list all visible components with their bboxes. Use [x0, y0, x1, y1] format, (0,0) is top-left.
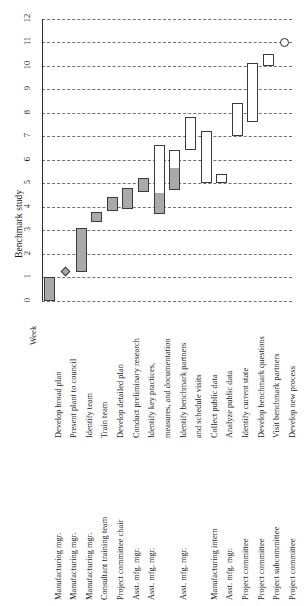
- task-label: Present plant to council: [70, 359, 78, 438]
- gantt-bar: [185, 117, 196, 150]
- resource-label: Asst. mfg. mgr.: [148, 548, 156, 600]
- resource-label: Manufacturing intern: [211, 528, 219, 600]
- week-tick-8: 8: [22, 105, 32, 119]
- week-tick-0: 0: [22, 293, 32, 307]
- resource-label: Project committee: [258, 539, 266, 600]
- resource-label: Asst. mfg. mgr.: [180, 548, 188, 600]
- gantt-bar: [138, 178, 149, 192]
- gantt-chart: Benchmark study Week 0123456789101112 De…: [0, 0, 304, 606]
- gantt-bar: [247, 63, 258, 122]
- week-axis-label: Week: [28, 326, 38, 345]
- task-label: Conduct preliminary research: [133, 338, 141, 438]
- milestone-diamond: [60, 266, 70, 276]
- task-label: and schedule visits: [195, 374, 203, 438]
- task-label: Train team: [101, 402, 109, 438]
- task-label: Develop detailed plan: [117, 364, 125, 438]
- week-tick-12: 12: [22, 11, 32, 25]
- resource-label: Project committee chair: [117, 520, 125, 600]
- resource-label: Manufacturing mgr.: [70, 533, 78, 600]
- gridline-week-4: [42, 207, 292, 208]
- week-tick-4: 4: [22, 199, 32, 213]
- week-tick-6: 6: [22, 152, 32, 166]
- week-tick-1: 1: [22, 269, 32, 283]
- gridline-week-5: [42, 183, 292, 184]
- gantt-bar-progress: [155, 193, 164, 213]
- milestone-circle: [280, 38, 289, 47]
- task-label: Develop broad plan: [55, 372, 63, 438]
- week-tick-11: 11: [22, 34, 32, 48]
- gantt-bar: [107, 197, 118, 211]
- resource-label: Consultant training team: [101, 517, 109, 600]
- week-tick-7: 7: [22, 128, 32, 142]
- gridline-week-1: [42, 277, 292, 278]
- week-tick-3: 3: [22, 222, 32, 236]
- gantt-bar: [232, 103, 243, 136]
- task-label: Develop benchmark questions: [258, 336, 266, 438]
- gantt-bar-progress: [170, 168, 179, 189]
- week-tick-9: 9: [22, 81, 32, 95]
- gantt-bar: [154, 145, 165, 213]
- resource-label: Manufacturing mgr.: [55, 533, 63, 600]
- resource-label: Asst. mfg. mgr.: [133, 548, 141, 600]
- gantt-bar: [76, 228, 87, 273]
- gridline-week-6: [42, 160, 292, 161]
- task-label: Identify benchmark partners: [180, 343, 188, 438]
- gantt-bar: [169, 150, 180, 190]
- week-axis-line: [42, 19, 43, 301]
- week-tick-5: 5: [22, 175, 32, 189]
- gridline-week-11: [42, 42, 292, 43]
- gridline-week-12: [42, 19, 292, 20]
- resource-label: Project subcommittee: [273, 527, 281, 600]
- gantt-bar: [44, 277, 55, 301]
- task-label: measures, and documentation: [164, 338, 172, 438]
- gridline-week-0: [42, 301, 292, 302]
- task-label: Identify current state: [242, 368, 250, 438]
- gantt-bar: [263, 54, 274, 66]
- gantt-bar: [122, 188, 133, 209]
- resource-label: Asst. mfg. mgr.: [226, 548, 234, 600]
- task-label: Develop new process: [289, 366, 297, 438]
- resource-label: Manufacturing mgr.: [86, 533, 94, 600]
- task-label: Analyze public data: [226, 371, 234, 438]
- resource-label: Project committee: [242, 539, 250, 600]
- week-tick-2: 2: [22, 246, 32, 260]
- gantt-bar: [91, 212, 102, 221]
- task-label: Identify key practices,: [148, 363, 156, 438]
- task-label: Identify team: [86, 393, 94, 438]
- gantt-bar: [216, 174, 227, 183]
- gantt-bar: [201, 131, 212, 183]
- week-tick-10: 10: [22, 58, 32, 72]
- task-label: Visit benchmark partners: [273, 353, 281, 438]
- gridline-week-7: [42, 136, 292, 137]
- resource-label: Project committee: [289, 539, 297, 600]
- task-label: Collect public data: [211, 374, 219, 438]
